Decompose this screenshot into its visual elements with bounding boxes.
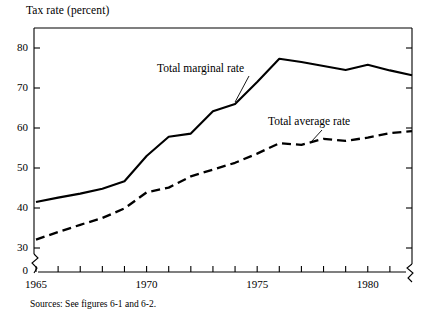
y-tick-label: 40 [17, 201, 29, 213]
series-line-average [36, 131, 412, 239]
x-tick-label: 1965 [25, 278, 48, 290]
y-tick-label: 70 [17, 81, 29, 93]
series-line-marginal [36, 59, 412, 202]
source-note: Sources: See figures 6-1 and 6-2. [30, 299, 156, 309]
y-tick-label: 30 [17, 241, 29, 253]
y-tick-label: 80 [17, 41, 29, 53]
y-axis-break-mark [32, 254, 38, 273]
x-axis-break-mark [407, 264, 413, 282]
x-tick-label: 1975 [246, 278, 269, 290]
annotation-average-label: Total average rate [268, 115, 350, 128]
chart-plot: 80706050403001965197019751980Total margi… [0, 0, 427, 319]
x-tick-label: 1970 [136, 278, 159, 290]
x-tick-label: 1980 [357, 278, 380, 290]
annotation-marginal-label: Total marginal rate [157, 62, 244, 75]
y-tick-label: 50 [17, 161, 29, 173]
y-tick-label: 60 [17, 121, 29, 133]
y-tick-label-0: 0 [23, 264, 29, 276]
figure-container: Tax rate (percent) 807060504030019651970… [0, 0, 427, 319]
